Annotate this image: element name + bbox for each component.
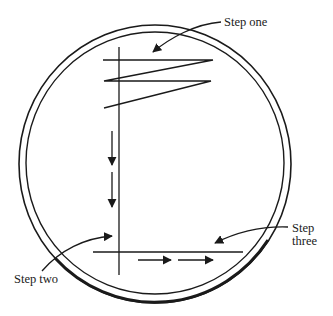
step-one-label: Step one: [224, 15, 268, 29]
petri-dish: [19, 25, 291, 303]
step-three-pointer: [215, 227, 288, 243]
step-two-label: Step two: [14, 272, 58, 286]
step-two-pointer: [42, 236, 112, 271]
step-three-label-line1: Step: [292, 221, 314, 235]
step-three-label-line2: three: [292, 234, 317, 248]
dish-rim-shadow: [55, 240, 268, 302]
streak-plate-diagram: Step one Step two Step three: [0, 0, 333, 316]
